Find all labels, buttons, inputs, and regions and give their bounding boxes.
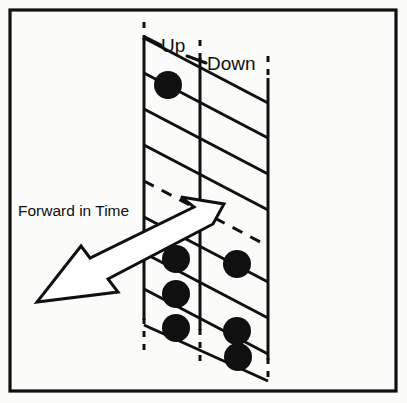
dot-up-row2 [162,280,190,308]
dot-up-row3 [162,314,190,342]
dot-down-row3 [223,317,251,345]
label-up: Up [161,35,185,56]
label-down: Down [207,53,256,74]
label-forward-in-time: Forward in Time [18,202,129,219]
dot-down-row1 [223,250,251,278]
figure-canvas: Up Down Forward in Time [0,0,407,403]
dot-up-top [154,71,182,99]
figure-root: Up Down Forward in Time [0,0,407,403]
dot-down-row4 [224,343,252,371]
